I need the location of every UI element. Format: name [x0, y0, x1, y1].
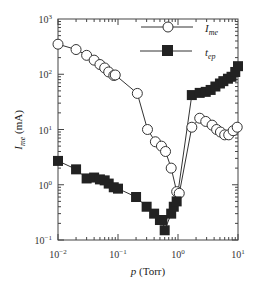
chart: 10−210−1100101 10310210110010−1 p (Torr)… [0, 0, 257, 294]
x-tick-label: 10−1 [109, 248, 127, 260]
data-point-circle [142, 125, 152, 135]
x-tick-label: 10−2 [49, 248, 67, 260]
legend-label-tep: tep [205, 46, 216, 61]
data-point-circle [110, 70, 120, 80]
x-tick-label: 100 [171, 248, 185, 260]
x-tick-label: 101 [231, 248, 245, 260]
y-tick-label: 10−1 [35, 234, 53, 246]
x-axis-tick-labels: 10−210−1100101 [49, 248, 245, 260]
legend-label-ime: Ime [204, 22, 218, 37]
filled-square-marker-icon [162, 45, 173, 56]
legend: Ime tep [140, 22, 218, 61]
x-axis-label: p (Torr) [130, 265, 166, 278]
data-point-circle [232, 122, 242, 132]
data-point-square [131, 192, 141, 202]
y-tick-label: 101 [39, 124, 53, 136]
data-point-square [172, 196, 182, 206]
data-point-circle [71, 45, 81, 55]
y-tick-label: 100 [39, 179, 53, 191]
y-tick-label: 102 [39, 68, 53, 80]
data-point-square [233, 61, 243, 71]
data-point-circle [53, 39, 63, 49]
legend-item-ime: Ime [141, 22, 218, 37]
series-markers [53, 39, 243, 235]
open-circle-marker-icon [163, 22, 173, 32]
data-point-circle [161, 146, 171, 156]
legend-item-tep: tep [140, 45, 216, 61]
data-point-circle [187, 122, 197, 132]
data-point-square [160, 225, 170, 235]
data-point-square [53, 156, 63, 166]
y-axis-label: Ime (mA) [12, 110, 27, 151]
y-axis-tick-labels: 10310210110010−1 [35, 13, 53, 246]
data-point-circle [166, 163, 176, 173]
data-point-square [113, 184, 123, 194]
data-point-square [71, 164, 81, 174]
y-tick-label: 103 [39, 13, 53, 25]
data-point-square [157, 215, 167, 225]
data-point-circle [132, 88, 142, 98]
